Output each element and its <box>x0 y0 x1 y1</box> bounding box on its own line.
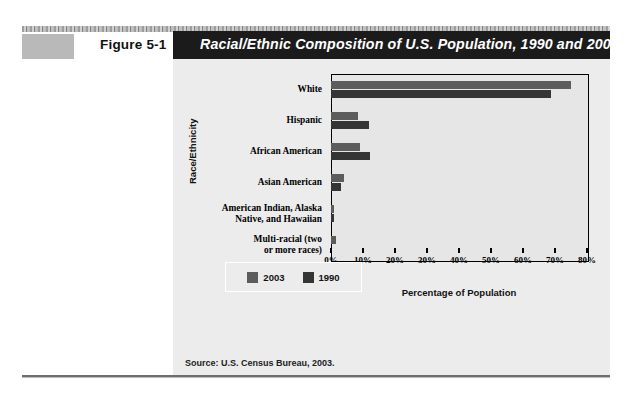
source-note: Source: U.S. Census Bureau, 2003. <box>185 358 335 368</box>
bar-1990-1 <box>331 121 369 129</box>
plot-area <box>331 74 589 262</box>
legend-swatch-1990 <box>303 272 314 283</box>
x-tick-2 <box>394 248 395 253</box>
x-tick-5 <box>490 248 491 253</box>
x-tick-label-3: 30% <box>418 255 436 265</box>
x-tick-8 <box>586 248 587 253</box>
y-axis-label-2: African American <box>250 146 322 157</box>
bar-1990-3 <box>331 183 341 191</box>
x-tick-label-7: 70% <box>546 255 564 265</box>
y-axis-category-labels: WhiteHispanicAfrican AmericanAsian Ameri… <box>173 74 328 264</box>
x-tick-1 <box>362 248 363 253</box>
figure-label: Figure 5-1 <box>100 37 167 52</box>
bar-2003-1 <box>331 112 358 120</box>
y-axis-label-1: Hispanic <box>287 115 322 126</box>
bar-1990-0 <box>331 90 551 98</box>
figure-accent-swatch <box>22 34 74 59</box>
figure-title: Racial/Ethnic Composition of U.S. Popula… <box>200 36 619 52</box>
x-tick-7 <box>554 248 555 253</box>
x-tick-label-4: 40% <box>450 255 468 265</box>
x-tick-0 <box>330 248 331 253</box>
y-axis-label-5: Multi-racial (two or more races) <box>254 234 322 255</box>
legend-swatch-2003 <box>247 272 258 283</box>
legend-label-1990: 1990 <box>319 272 340 283</box>
x-tick-4 <box>458 248 459 253</box>
bar-2003-4 <box>331 205 334 213</box>
y-axis-label-4: American Indian, Alaska Native, and Hawa… <box>222 203 322 224</box>
x-tick-label-6: 60% <box>514 255 532 265</box>
legend-item-2003: 2003 <box>247 272 284 283</box>
x-tick-label-2: 20% <box>386 255 404 265</box>
chart-legend: 2003 1990 <box>225 262 362 292</box>
bar-2003-3 <box>331 174 344 182</box>
bar-2003-5 <box>331 236 336 244</box>
legend-label-2003: 2003 <box>263 272 284 283</box>
bar-1990-2 <box>331 152 370 160</box>
y-axis-label-3: Asian American <box>258 177 322 188</box>
figure-label-row: Figure 5-1 <box>22 32 172 62</box>
figure-title-bar: Racial/Ethnic Composition of U.S. Popula… <box>173 31 610 59</box>
y-axis-label-0: White <box>298 84 322 95</box>
x-tick-label-5: 50% <box>482 255 500 265</box>
x-tick-label-8: 80% <box>578 255 596 265</box>
x-tick-6 <box>522 248 523 253</box>
legend-item-1990: 1990 <box>303 272 340 283</box>
bar-2003-0 <box>331 81 571 89</box>
x-axis-title: Percentage of Population <box>331 287 587 298</box>
bottom-rule-shadow <box>22 377 610 378</box>
x-tick-3 <box>426 248 427 253</box>
bar-2003-2 <box>331 143 360 151</box>
bar-1990-4 <box>331 214 334 222</box>
